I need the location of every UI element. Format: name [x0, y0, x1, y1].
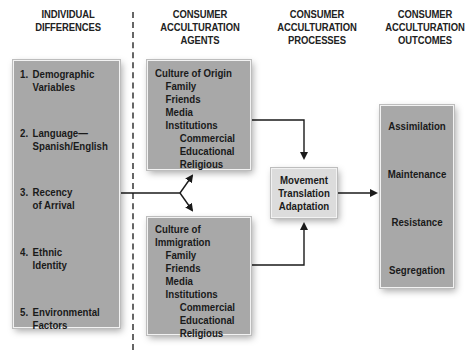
outcome-item: Segregation — [384, 264, 449, 277]
agent-item: Friends — [166, 93, 236, 106]
culture-of-immigration-content: Culture of Immigration Family Friends Me… — [155, 223, 235, 340]
culture-title: Culture of Origin — [155, 67, 235, 80]
outcome-item: Maintenance — [384, 168, 449, 181]
item-number: 3. — [20, 186, 28, 198]
agent-item: Media — [166, 106, 236, 119]
agent-item: Family — [166, 80, 236, 93]
institution-item: Educational — [180, 145, 235, 158]
individual-difference-item: 4. Ethnic Identity — [20, 246, 67, 272]
institution-item: Religious — [180, 158, 235, 171]
item-text: Recency — [33, 186, 75, 199]
process-item: Adaptation — [275, 200, 333, 213]
item-text: of Arrival — [33, 199, 75, 212]
item-number: 2. — [20, 127, 28, 139]
item-text: Variables — [33, 81, 95, 94]
item-number: 1. — [20, 68, 28, 80]
agent-item: Friends — [166, 262, 236, 275]
institution-item: Commercial — [180, 301, 235, 314]
institution-item: Educational — [180, 314, 235, 327]
item-text: Spanish/English — [33, 140, 108, 153]
item-text: Factors — [33, 319, 100, 332]
item-text: Environmental — [33, 306, 100, 319]
individual-difference-item: 1. Demographic Variables — [20, 68, 94, 94]
culture-of-origin-content: Culture of Origin Family Friends Media I… — [155, 67, 235, 171]
individual-difference-item: 5. Environmental Factors — [20, 306, 100, 332]
outcome-item: Assimilation — [384, 120, 449, 133]
process-item: Movement — [275, 174, 333, 187]
outcome-item: Resistance — [384, 216, 449, 229]
individual-difference-item: 2. Language— Spanish/English — [20, 127, 108, 153]
process-item: Translation — [275, 187, 333, 200]
agent-item: Institutions — [166, 119, 236, 132]
processes-content: Movement Translation Adaptation — [275, 174, 333, 213]
item-text: Language— — [33, 127, 108, 140]
individual-difference-item: 3. Recency of Arrival — [20, 186, 75, 212]
culture-title: Immigration — [155, 236, 235, 249]
item-text: Ethnic — [33, 246, 67, 259]
item-number: 5. — [20, 306, 28, 318]
item-text: Identity — [33, 259, 67, 272]
agent-item: Family — [166, 249, 236, 262]
agent-item: Institutions — [166, 288, 236, 301]
culture-title: Culture of — [155, 223, 235, 236]
institution-item: Commercial — [180, 132, 235, 145]
item-text: Demographic — [33, 68, 95, 81]
agent-item: Media — [166, 275, 236, 288]
item-number: 4. — [20, 246, 28, 258]
institution-item: Religious — [180, 327, 235, 340]
